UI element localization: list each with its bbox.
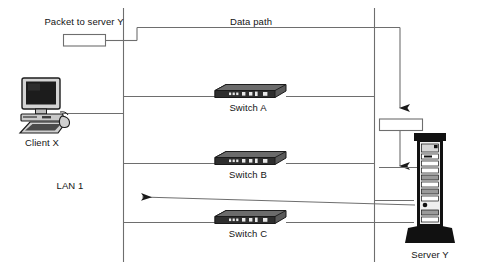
switch-a-device: [215, 85, 286, 98]
packet-top-box: [64, 35, 106, 47]
server-y-label: Server Y: [411, 249, 449, 260]
switch-b-device: [215, 152, 286, 165]
data-path-label: Data path: [230, 16, 272, 27]
lan-label: LAN 1: [57, 180, 84, 191]
client-x-workstation: [20, 78, 70, 133]
switch-c-label: Switch C: [229, 228, 267, 239]
switch-b-label: Switch B: [229, 169, 267, 180]
packet-top-label: Packet to server Y: [44, 16, 123, 27]
switch-c-device: [215, 211, 286, 224]
packet-right-box: [380, 119, 423, 131]
server-y-device: [405, 133, 455, 243]
diagram-canvas: Packet to server Y Data path Client X LA…: [0, 0, 486, 270]
client-x-label: Client X: [25, 137, 59, 148]
switch-a-label: Switch A: [229, 102, 266, 113]
